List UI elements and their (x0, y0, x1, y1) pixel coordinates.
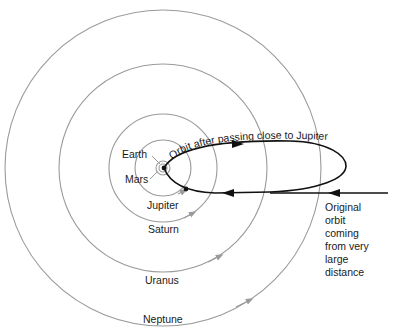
jupiter-label: Jupiter (147, 199, 179, 211)
original-orbit-description: Original orbit coming from very large di… (325, 201, 370, 278)
incoming-arrow-icon (328, 189, 340, 197)
ellipse-bottom-arrow-icon (222, 189, 234, 197)
svg-text:from very: from very (325, 240, 370, 252)
svg-text:orbit: orbit (325, 214, 346, 226)
mars-leader-line (150, 172, 157, 179)
neptune-direction-arrow-icon (236, 300, 250, 307)
comet-orbit-diagram: Orbit after passing close to Jupiter Ear… (0, 0, 393, 335)
uranus-label: Uranus (145, 274, 179, 286)
jupiter-planet-dot (184, 187, 189, 192)
saturn-direction-arrow-icon (184, 213, 193, 218)
saturn-label: Saturn (148, 223, 179, 235)
svg-text:large: large (325, 253, 349, 265)
earth-label: Earth (122, 148, 147, 160)
earth-leader-line (152, 156, 160, 164)
uranus-direction-arrow-icon (208, 256, 220, 262)
orbit-after-jupiter-label: Orbit after passing close to Jupiter (166, 129, 329, 161)
neptune-label: Neptune (143, 313, 183, 325)
svg-text:Original: Original (325, 201, 361, 213)
sun-dot (162, 166, 167, 171)
mars-label: Mars (125, 173, 148, 185)
svg-text:coming: coming (325, 227, 359, 239)
svg-text:distance: distance (325, 266, 364, 278)
